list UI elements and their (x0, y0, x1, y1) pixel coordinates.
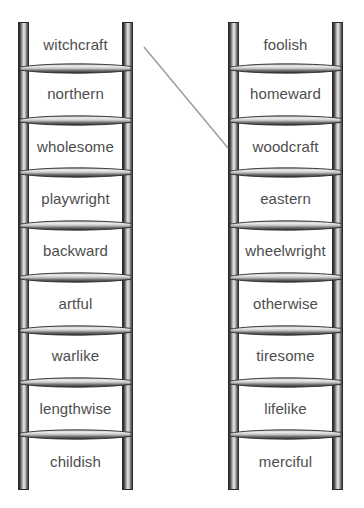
ladder-word-cell: homeward (232, 79, 339, 109)
word-ladder-figure: witchcraftnorthernwholesomeplaywrightbac… (0, 0, 364, 508)
ladder-word-cell: wheelwright (232, 236, 339, 266)
ladder-word-cell: warlike (22, 341, 129, 371)
ladder-word-cell: woodcraft (232, 132, 339, 162)
ladder-word-cell: foolish (232, 30, 339, 60)
ladder-word-cell: playwright (22, 184, 129, 214)
ladder-word-cell: childish (22, 447, 129, 477)
ladder-word-cell: artful (22, 289, 129, 319)
ladder-word-cell: wholesome (22, 132, 129, 162)
ladder-word-cell: eastern (232, 184, 339, 214)
ladder-word-cell: backward (22, 236, 129, 266)
ladder-word-cell: northern (22, 79, 129, 109)
matching-line (144, 47, 228, 148)
ladder-word-cell: lifelike (232, 394, 339, 424)
ladder-word-cell: witchcraft (22, 30, 129, 60)
ladder-word-cell: merciful (232, 447, 339, 477)
ladder-word-cell: otherwise (232, 289, 339, 319)
ladder-word-cell: tiresome (232, 341, 339, 371)
ladder-word-cell: lengthwise (22, 394, 129, 424)
